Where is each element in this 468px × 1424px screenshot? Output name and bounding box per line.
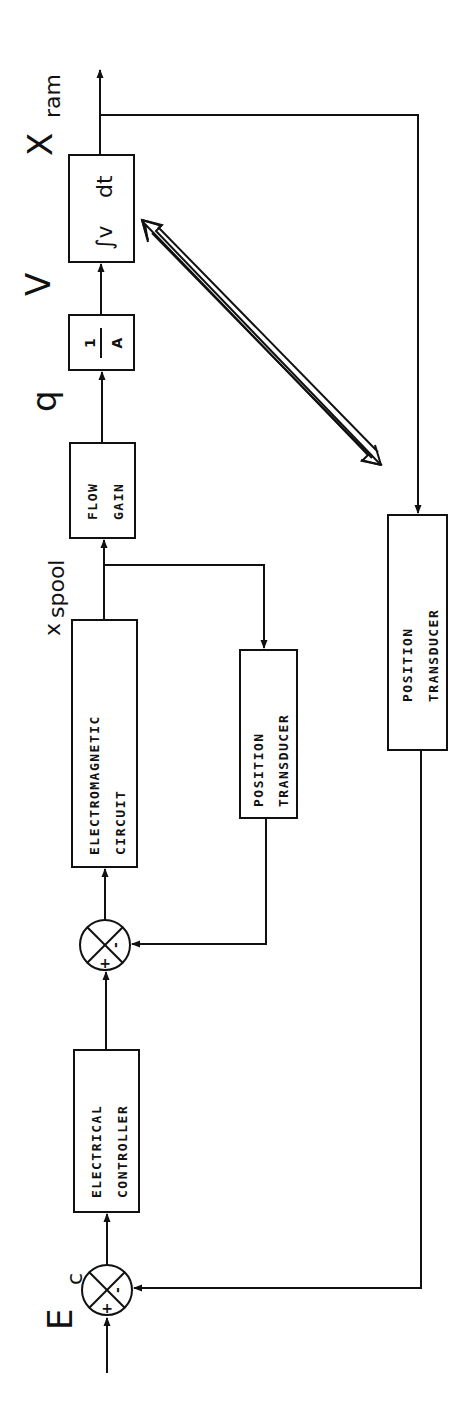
svg-text:TRANSDUCER: TRANSDUCER <box>276 714 291 807</box>
summing-junction-1: + - <box>82 1265 132 1316</box>
plus-sign: + <box>101 1300 113 1316</box>
input-signal-label: E c <box>40 1273 87 1330</box>
flow-signal-label: q <box>24 390 64 412</box>
inner-feedback-line <box>132 818 266 944</box>
flow-gain-block: FLOW GAIN <box>70 443 135 538</box>
svg-text:1: 1 <box>82 338 98 348</box>
svg-text:POSITION: POSITION <box>400 627 415 702</box>
electrical-controller-block: ELECTRICAL CONTROLLER <box>74 1050 139 1212</box>
outer-feedback-line <box>134 750 421 1288</box>
svg-text:E: E <box>40 1309 80 1330</box>
svg-text:CONTROLLER: CONTROLLER <box>115 1105 130 1198</box>
svg-text:TRANSDUCER: TRANSDUCER <box>426 609 441 702</box>
svg-text:ram: ram <box>40 74 65 118</box>
svg-text:CIRCUIT: CIRCUIT <box>113 790 128 855</box>
plus-sign: + <box>99 955 111 971</box>
svg-text:dt: dt <box>92 175 117 198</box>
integrator-block: ∫v dt <box>69 155 134 262</box>
svg-text:FLOW: FLOW <box>85 483 100 520</box>
svg-text:ELECTROMAGNETIC: ELECTROMAGNETIC <box>87 715 102 855</box>
svg-text:x: x <box>40 623 65 636</box>
minus-sign: - <box>107 942 123 948</box>
block-diagram: E c x spool q V X ram + - + - E <box>0 0 468 1424</box>
mechanical-link-double-arrow <box>142 220 382 465</box>
minus-sign: - <box>109 1287 125 1293</box>
area-block: 1 A <box>69 315 134 370</box>
svg-text:spool: spool <box>44 560 69 618</box>
svg-text:GAIN: GAIN <box>111 483 126 520</box>
summing-junction-2: + - <box>80 920 130 971</box>
output-signal-label: X ram <box>20 74 65 156</box>
spool-signal-label: x spool <box>40 560 69 636</box>
velocity-signal-label: V <box>18 273 58 296</box>
svg-text:X: X <box>20 133 60 156</box>
inner-position-transducer-block: POSITION TRANSDUCER <box>240 650 297 818</box>
svg-text:∫v: ∫v <box>92 226 117 250</box>
svg-text:POSITION: POSITION <box>251 732 266 807</box>
outer-position-transducer-block: POSITION TRANSDUCER <box>388 515 447 750</box>
electromagnetic-circuit-block: ELECTROMAGNETIC CIRCUIT <box>72 620 137 867</box>
svg-text:ELECTRICAL: ELECTRICAL <box>89 1105 104 1198</box>
svg-text:A: A <box>109 337 125 348</box>
